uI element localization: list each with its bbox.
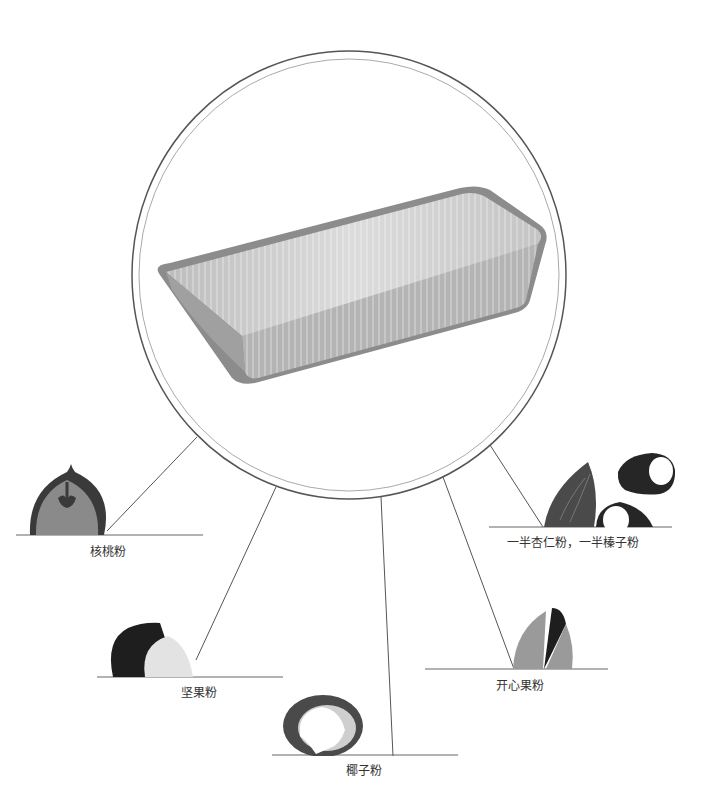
connector-almond [490,445,543,527]
connector-pistachio [443,477,514,669]
mixed-nut-icon [111,623,193,677]
almond-hazelnut-icon [544,453,675,534]
pistachio-icon [513,608,573,669]
connector-coconut [381,497,393,756]
walnut-icon [30,464,106,535]
label-pistachio: 开心果粉 [496,676,544,693]
pan-icon [158,186,547,383]
connector-mixed-nut [196,487,276,660]
diagram-canvas [0,0,717,809]
label-walnut: 核桃粉 [90,542,126,559]
label-coconut: 椰子粉 [346,761,382,778]
connector-walnut [107,437,197,531]
label-almond-hazelnut: 一半杏仁粉，一半榛子粉 [507,533,639,550]
label-mixed-nut: 坚果粉 [181,683,217,700]
